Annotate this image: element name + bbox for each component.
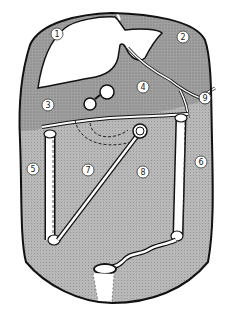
svg-text:5: 5 (30, 165, 35, 174)
label-8: 8 (137, 166, 149, 178)
label-1: 1 (51, 28, 63, 40)
label-4: 4 (137, 81, 149, 93)
svg-text:6: 6 (198, 158, 203, 167)
label-9: 9 (199, 92, 211, 104)
svg-text:4: 4 (140, 83, 145, 92)
svg-text:3: 3 (45, 101, 50, 110)
label-3: 3 (42, 99, 54, 111)
label-7: 7 (82, 164, 94, 176)
abdominal-diagram: 1 2 3 4 5 6 7 8 9 (0, 0, 225, 322)
svg-text:1: 1 (54, 30, 59, 39)
svg-text:9: 9 (202, 94, 207, 103)
svg-text:7: 7 (85, 166, 90, 175)
svg-text:2: 2 (180, 33, 185, 42)
cyst-upper (100, 85, 114, 99)
label-6: 6 (195, 156, 207, 168)
cyst-lower (84, 98, 96, 110)
label-2: 2 (177, 31, 189, 43)
svg-text:8: 8 (140, 168, 145, 177)
label-5: 5 (27, 163, 39, 175)
